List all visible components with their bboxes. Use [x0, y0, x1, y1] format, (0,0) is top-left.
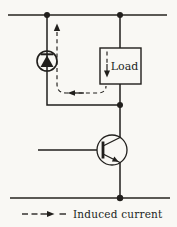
- induced-current-dashed-line: [57, 32, 106, 93]
- collector-lead: [103, 138, 120, 147]
- up-arrow-icon: [54, 24, 60, 32]
- circuit-diagram-page: Load: [0, 0, 177, 227]
- npn-transistor-icon: [38, 135, 127, 165]
- junction-dot: [117, 12, 123, 18]
- junction-dot: [117, 102, 123, 108]
- transistor-circle: [97, 135, 127, 165]
- left-arrow-icon: [68, 90, 76, 96]
- junction-dot: [44, 12, 50, 18]
- legend-label: Induced current: [73, 208, 163, 220]
- diode-triangle: [41, 56, 54, 68]
- junction-dot: [117, 195, 123, 201]
- load-label: Load: [111, 60, 139, 73]
- induced-current-path: [54, 24, 106, 96]
- circuit-diagram: Load: [0, 0, 177, 227]
- legend-dashed-arrow-icon: [22, 211, 66, 217]
- load-block: Load: [100, 48, 141, 84]
- legend: Induced current: [22, 208, 163, 220]
